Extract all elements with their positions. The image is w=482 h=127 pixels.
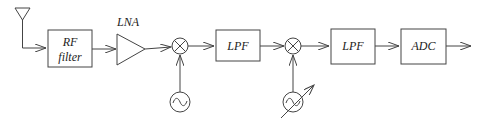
adc-block: ADC: [401, 29, 446, 64]
mixer1-icon: [172, 38, 188, 54]
lpf2-block: LPF: [331, 29, 375, 64]
tunable-oscillator-icon: [281, 85, 314, 118]
rf-filter-label-line2: filter: [58, 50, 82, 64]
oscillator1-icon: [170, 92, 190, 112]
lna-block: LNA: [116, 15, 145, 65]
lpf1-label: LPF: [226, 39, 249, 53]
mixer2-icon: [285, 38, 301, 54]
rf-filter-label-line1: RF: [62, 35, 78, 49]
lna-label: LNA: [116, 15, 140, 29]
antenna-icon: [15, 8, 30, 48]
lpf1-block: LPF: [216, 30, 260, 61]
lpf2-label: LPF: [341, 39, 364, 53]
rf-filter-block: RF filter: [48, 30, 92, 67]
adc-label: ADC: [411, 39, 437, 53]
receiver-block-diagram: RF filter LNA LPF LPF: [0, 0, 482, 127]
arrow-lna-to-mixer1: [145, 47, 171, 49]
